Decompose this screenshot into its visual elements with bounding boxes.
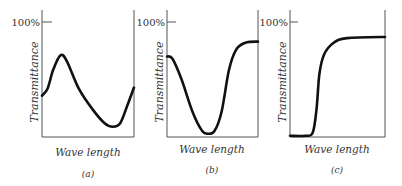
panel-a-100-label: 100% bbox=[11, 17, 40, 28]
panel-b-xlabel: Wave length bbox=[179, 143, 245, 155]
transmittance-figure: 100% Transmittance Wave length (a) 100% … bbox=[0, 0, 402, 186]
panel-b-axes bbox=[167, 10, 258, 137]
panel-c-xlabel: Wave length bbox=[304, 143, 370, 155]
panel-a-ylabel: Transmittance bbox=[28, 41, 41, 122]
panel-b-caption: (b) bbox=[206, 165, 219, 175]
panel-a-caption: (a) bbox=[82, 169, 95, 179]
panel-b-ylabel: Transmittance bbox=[153, 41, 166, 122]
panel-b-curve bbox=[167, 42, 258, 134]
panel-c-curve bbox=[290, 37, 385, 136]
panel-c-100-label: 100% bbox=[259, 17, 288, 28]
panel-c-caption: (c) bbox=[331, 165, 344, 175]
panel-a-curve bbox=[42, 55, 134, 127]
panel-c-ylabel: Transmittance bbox=[276, 41, 289, 122]
panel-c-axes bbox=[290, 10, 385, 137]
panel-a-xlabel: Wave length bbox=[55, 146, 121, 158]
panel-c: 100% Transmittance Wave length (c) bbox=[259, 10, 385, 175]
panel-b: 100% Transmittance Wave length (b) bbox=[136, 10, 258, 175]
panel-a-axes bbox=[42, 10, 134, 137]
panel-a: 100% Transmittance Wave length (a) bbox=[11, 10, 134, 179]
panel-b-100-label: 100% bbox=[136, 17, 165, 28]
